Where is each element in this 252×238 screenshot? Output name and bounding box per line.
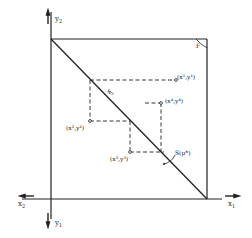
x2-arrow-head [20,195,25,198]
y2-arrow-head [47,10,50,15]
diagram-canvas: F y2 y1 x1 x2 (x¹,y¹) (x²,y²) (x³,y³) (x… [0,0,252,238]
corner-label: F [196,42,200,49]
box-frame [22,12,222,219]
point-2-label: (x²,y²) [66,124,84,132]
adjustment-path [90,80,176,152]
y1-axis-label: y1 [54,219,62,228]
x1-axis-label: x1 [228,200,235,209]
points [89,79,178,154]
feasibility-diagonal [51,39,207,199]
s-label-anchor [163,163,165,165]
y2-axis-label: y2 [54,15,62,24]
point-4-label: (x⁴,y⁴) [165,97,183,105]
point-4 [160,102,163,105]
diagonal-label: S(μ*) [175,149,191,157]
point-1-label: (x¹,y¹) [177,73,195,81]
point-2 [89,120,92,123]
x1-arrow-head [234,195,239,198]
axis-arrows [20,10,239,227]
point-3-label: (x³,y³) [110,155,128,163]
point-3 [129,151,132,154]
y1-arrow-head [47,222,50,227]
x2-axis-label: x2 [18,200,25,209]
